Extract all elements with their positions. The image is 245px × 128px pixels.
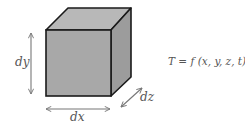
dx-label: dx — [70, 110, 85, 124]
cube-front-face — [46, 30, 111, 96]
dy-label: dy — [15, 55, 30, 69]
cube — [46, 8, 131, 96]
dz-label: dz — [140, 90, 155, 104]
dz-arrow — [121, 88, 142, 107]
temperature-equation: T = f (x, y, z, t) — [168, 55, 245, 67]
volume-element-diagram: dy dx dz T = f (x, y, z, t) — [0, 0, 245, 128]
